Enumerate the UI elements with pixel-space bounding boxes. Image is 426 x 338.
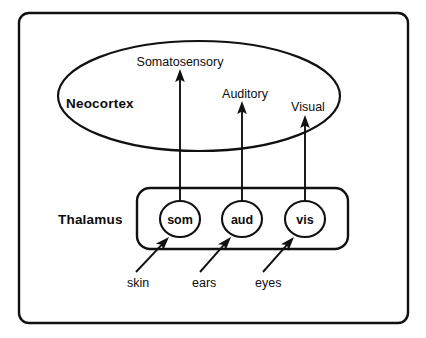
sensory-input-label-skin: skin — [127, 276, 149, 290]
neocortex-label: Neocortex — [66, 96, 134, 111]
input-line-skin — [136, 242, 164, 272]
thalamic-nucleus-label-vis: vis — [296, 213, 313, 227]
diagram-canvas: Neocortex Somatosensory Auditory Visual … — [0, 0, 426, 338]
thalamic-nucleus-label-aud: aud — [231, 213, 253, 227]
sensory-input-label-eyes: eyes — [255, 276, 281, 290]
input-line-eyes — [263, 242, 289, 272]
cortex-area-label-somatosensory: Somatosensory — [137, 55, 225, 69]
thalamus-label: Thalamus — [58, 212, 123, 227]
input-line-ears — [200, 242, 226, 272]
thalamocortical-diagram: Neocortex Somatosensory Auditory Visual … — [0, 0, 426, 338]
cortex-area-label-visual: Visual — [291, 100, 325, 114]
thalamic-nucleus-label-som: som — [167, 213, 193, 227]
sensory-input-label-ears: ears — [192, 276, 216, 290]
cortex-area-label-auditory: Auditory — [222, 87, 269, 101]
